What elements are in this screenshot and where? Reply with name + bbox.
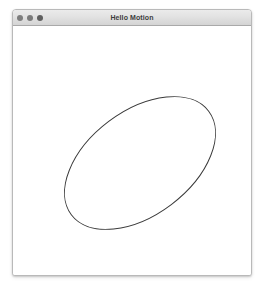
canvas-svg	[13, 26, 251, 276]
window-title: Hello Motion	[13, 10, 251, 25]
window-titlebar[interactable]: Hello Motion	[13, 10, 251, 26]
window-controls	[17, 10, 43, 25]
minimize-button-icon[interactable]	[27, 15, 33, 21]
ellipse-shape	[40, 70, 240, 257]
application-window: Hello Motion	[12, 9, 252, 276]
close-button-icon[interactable]	[17, 15, 23, 21]
screen: Hello Motion	[0, 0, 264, 283]
drawing-canvas	[13, 26, 251, 276]
zoom-button-icon[interactable]	[37, 15, 43, 21]
